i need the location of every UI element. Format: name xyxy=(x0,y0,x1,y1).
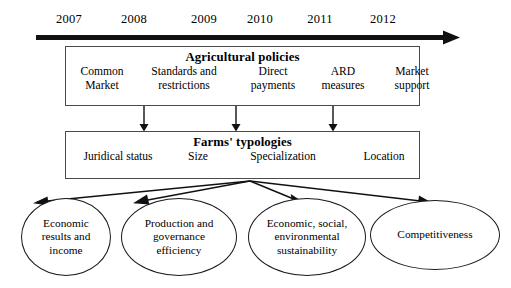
policy-item-market-support: Market support xyxy=(378,65,446,92)
timeline-year-2007: 2007 xyxy=(44,11,94,27)
outcome-label-economic-results: Economic results and income xyxy=(36,217,97,257)
farms-typologies-title: Farms' typologies xyxy=(66,134,419,150)
typology-item-size: Size xyxy=(170,150,226,164)
farms-typologies-box: Farms' typologies Juridical status Size … xyxy=(65,131,420,179)
policies-to-typologies-arrows xyxy=(140,106,338,132)
typology-item-specialization: Specialization xyxy=(228,150,338,164)
policy-item-ard-measures: ARD measures xyxy=(306,65,380,92)
outcome-ellipse-economic-results: Economic results and income xyxy=(21,198,111,276)
agricultural-policies-title: Agricultural policies xyxy=(66,49,419,65)
agricultural-policies-items: Common Market Standards and restrictions… xyxy=(66,65,419,105)
farms-typologies-items: Juridical status Size Specialization Loc… xyxy=(66,150,419,190)
timeline-year-2009: 2009 xyxy=(179,11,229,27)
policy-item-common-market: Common Market xyxy=(66,65,138,92)
policy-item-standards-restrictions: Standards and restrictions xyxy=(136,65,232,92)
outcome-ellipse-production-governance: Production and governance efficiency xyxy=(121,198,237,276)
diagram-canvas: 2007 2008 2009 2010 2011 2012 Agricultur… xyxy=(0,0,511,288)
outcome-ellipse-competitiveness: Competitiveness xyxy=(370,200,500,270)
agricultural-policies-box: Agricultural policies Common Market Stan… xyxy=(65,46,420,106)
timeline-year-2010: 2010 xyxy=(235,11,285,27)
typology-item-juridical-status: Juridical status xyxy=(64,150,172,164)
policy-item-direct-payments: Direct payments xyxy=(236,65,310,92)
outcome-ellipse-sustainability: Economic, social, environmental sustaina… xyxy=(248,198,366,276)
outcome-label-production-governance: Production and governance efficiency xyxy=(139,217,220,257)
timeline-arrow xyxy=(0,28,511,48)
outcome-label-sustainability: Economic, social, environmental sustaina… xyxy=(261,217,354,257)
outcome-label-competitiveness: Competitiveness xyxy=(391,228,478,241)
timeline-year-2011: 2011 xyxy=(295,11,345,27)
typology-item-location: Location xyxy=(346,150,422,164)
timeline-year-2008: 2008 xyxy=(109,11,159,27)
timeline-year-2012: 2012 xyxy=(358,11,408,27)
